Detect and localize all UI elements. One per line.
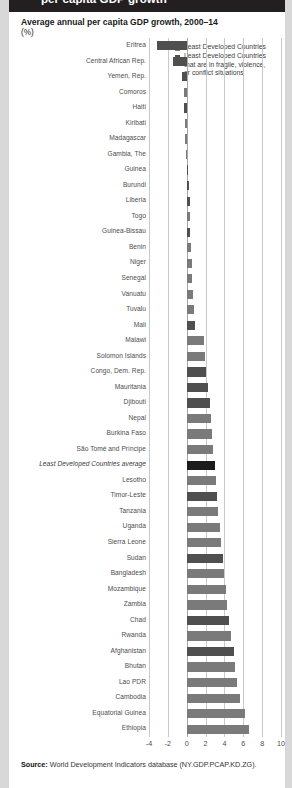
bar-ldc	[184, 88, 187, 97]
category-label: Solomon Islands	[97, 352, 147, 359]
bar-fragile	[187, 616, 229, 625]
category-label: Bangladesh	[111, 569, 146, 576]
category-label: Zambia	[124, 600, 146, 607]
category-label: Niger	[130, 258, 146, 265]
bar-row: Congo, Dem. Rep.	[9, 364, 285, 380]
source-label: Source:	[21, 760, 48, 769]
category-label: Vanuatu	[122, 290, 146, 297]
bar-fragile	[187, 197, 190, 206]
bar-row: Nepal	[9, 411, 285, 427]
chart-title: Average annual per capita GDP growth, 20…	[21, 17, 218, 27]
chart-subtitle: (%)	[21, 28, 34, 37]
x-tick-label: 4	[222, 739, 226, 748]
category-label: São Tomé and Príncipe	[77, 445, 146, 452]
bar-row: Lao PDR	[9, 675, 285, 691]
plot-area: EritreaCentral African Rep.Yemen, Rep.Co…	[9, 38, 285, 752]
chart-page: per capita GDP growth Average annual per…	[0, 0, 292, 788]
bar-row: Lesotho	[9, 473, 285, 489]
bar-ldc	[187, 414, 212, 423]
bar-row: Gambia, The	[9, 147, 285, 163]
bar-ldc	[187, 429, 212, 438]
x-axis: -4-20246810	[9, 739, 285, 753]
bar-fragile	[187, 367, 206, 376]
bar-row: Guinea-Bissau	[9, 224, 285, 240]
bar-row: Tuvalu	[9, 302, 285, 318]
bar-fragile	[182, 72, 186, 81]
bar-row: Timor-Leste	[9, 488, 285, 504]
category-label: Togo	[132, 212, 147, 219]
bar-row: Afghanistan	[9, 644, 285, 660]
category-label: Tanzania	[119, 507, 146, 514]
bar-fragile	[187, 228, 191, 237]
bar-row: Chad	[9, 613, 285, 629]
category-label: Timor-Leste	[111, 491, 146, 498]
category-label: Djibouti	[124, 398, 146, 405]
bar-row: Malawi	[9, 333, 285, 349]
category-label: Uganda	[123, 522, 146, 529]
bar-ldc	[187, 243, 192, 252]
bar-ldc	[187, 445, 213, 454]
bar-ldc	[187, 305, 195, 314]
category-label: Malawi	[125, 336, 146, 343]
category-label: Comoros	[119, 88, 146, 95]
bar-fragile	[187, 554, 224, 563]
category-label: Rwanda	[122, 631, 147, 638]
bar-fragile	[187, 321, 195, 330]
bar-row: Central African Rep.	[9, 54, 285, 70]
bar-row: Djibouti	[9, 395, 285, 411]
category-label: Liberia	[126, 196, 146, 203]
bar-row: Burkina Faso	[9, 426, 285, 442]
category-label: Chad	[130, 616, 146, 623]
bar-row: Burundi	[9, 178, 285, 194]
bar-fragile	[187, 492, 217, 501]
bar-ldc	[187, 274, 193, 283]
category-label: Bhutan	[125, 662, 146, 669]
bar-row: Senegal	[9, 271, 285, 287]
bar-fragile	[187, 647, 234, 656]
bar-row: Sudan	[9, 551, 285, 567]
bar-row: Sierra Leone	[9, 535, 285, 551]
bar-row: Tanzania	[9, 504, 285, 520]
x-tick-label: 6	[241, 739, 245, 748]
bar-ldc	[185, 119, 187, 128]
bar-row: Liberia	[9, 193, 285, 209]
bar-ldc	[187, 476, 216, 485]
bar-row: Niger	[9, 255, 285, 271]
bar-row: Equatorial Guinea	[9, 706, 285, 722]
bar-row: Least Developed Countries average	[9, 457, 285, 473]
x-tick-label: 10	[277, 739, 285, 748]
x-tick-label: 0	[185, 739, 189, 748]
bar-row: Solomon Islands	[9, 349, 285, 365]
category-label: Ethiopia	[122, 724, 146, 731]
bar-row: Comoros	[9, 85, 285, 101]
source-text: World Development Indicators database (N…	[48, 760, 257, 769]
page-banner: per capita GDP growth	[9, 0, 285, 12]
category-label: Burkina Faso	[107, 429, 146, 436]
category-label: Madagascar	[109, 134, 146, 141]
bar-row: Haiti	[9, 100, 285, 116]
bar-fragile	[187, 398, 211, 407]
bar-fragile	[187, 165, 188, 174]
bar-row: Mozambique	[9, 582, 285, 598]
category-label: Yemen, Rep.	[108, 72, 146, 79]
bar-fragile	[187, 181, 189, 190]
category-label: Mozambique	[108, 585, 146, 592]
bar-row: Vanuatu	[9, 287, 285, 303]
bar-fragile	[184, 103, 186, 112]
x-tick-label: 2	[204, 739, 208, 748]
bar-row: Mauritania	[9, 380, 285, 396]
category-label: Sierra Leone	[108, 538, 146, 545]
bar-ldc	[187, 585, 227, 594]
bar-avg	[187, 461, 215, 470]
bar-rows: EritreaCentral African Rep.Yemen, Rep.Co…	[9, 38, 285, 737]
category-label: Tuvalu	[126, 305, 146, 312]
bar-ldc	[186, 150, 187, 159]
bar-ldc	[187, 523, 220, 532]
category-label: Burundi	[123, 181, 146, 188]
bar-fragile	[173, 57, 187, 66]
bar-row: Bhutan	[9, 659, 285, 675]
bar-fragile	[187, 383, 209, 392]
bar-row: Kiribati	[9, 116, 285, 132]
bar-row: Mali	[9, 318, 285, 334]
bar-ldc	[187, 569, 225, 578]
